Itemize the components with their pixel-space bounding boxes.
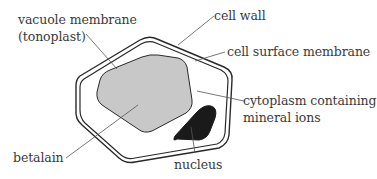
label-betalain: betalain (13, 150, 64, 166)
plant-cell-diagram: vacuole membrane (tonoplast) cell wall c… (0, 0, 377, 179)
label-vacuole-membrane-line1: vacuole membrane (18, 11, 137, 28)
label-cytoplasm-line2: mineral ions (243, 109, 376, 126)
label-vacuole-membrane-line2: (tonoplast) (18, 28, 137, 45)
label-cytoplasm-line1: cytoplasm containing (243, 92, 376, 109)
label-cell-wall: cell wall (214, 8, 266, 24)
label-cytoplasm: cytoplasm containing mineral ions (243, 92, 376, 126)
leader-betalain (66, 105, 138, 158)
leader-cytoplasm (197, 91, 244, 101)
label-nucleus: nucleus (174, 157, 222, 173)
label-cell-surface-membrane: cell surface membrane (227, 44, 370, 60)
label-vacuole-membrane: vacuole membrane (tonoplast) (18, 11, 137, 45)
leader-cell-wall (178, 16, 214, 45)
vacuole (97, 55, 192, 132)
